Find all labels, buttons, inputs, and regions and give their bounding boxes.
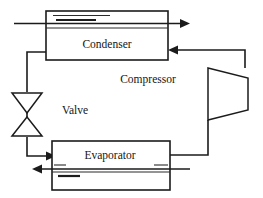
valve-triangle-lower: [12, 117, 42, 136]
valve-triangle-upper: [12, 93, 42, 113]
arrow-into-condenser: [168, 46, 178, 55]
arrow-evaporator-coolant-out: [32, 165, 42, 174]
condenser-outer-box: [46, 11, 168, 60]
condenser-label: Condenser: [82, 38, 131, 50]
compressor-label: Compressor: [120, 73, 176, 86]
evaporator-unit: Evaporator: [32, 141, 190, 190]
refrigeration-cycle-diagram: Condenser Evaporator Compressor: [0, 0, 263, 198]
compressor-unit: Compressor: [120, 68, 248, 120]
pipe-evaporator-to-compressor: [170, 120, 208, 155]
diagram-canvas: Condenser Evaporator Compressor: [0, 0, 263, 198]
compressor-body: [208, 68, 248, 120]
arrow-condenser-coolant-out: [180, 19, 190, 28]
expansion-valve-unit: Valve: [12, 93, 88, 136]
valve-label: Valve: [62, 104, 88, 116]
pipe-compressor-to-condenser: [168, 46, 245, 69]
evaporator-label: Evaporator: [84, 149, 135, 162]
